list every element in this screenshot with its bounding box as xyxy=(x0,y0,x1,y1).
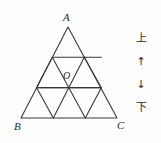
vertex-label-b: B xyxy=(14,121,21,132)
direction-label-down: 下 xyxy=(136,102,147,113)
interior-line-parallel-ab-3 xyxy=(85,88,101,118)
interior-line-parallel-ac-1 xyxy=(84,57,101,87)
geometry-figure: A B C O 上 ↑ ↓ 下 xyxy=(0,0,161,143)
up-arrow-icon: ↑ xyxy=(136,56,145,67)
interior-line-parallel-ac-3 xyxy=(37,88,54,118)
vertical-direction-key: 上 ↑ ↓ 下 xyxy=(129,33,153,113)
vertex-label-c: C xyxy=(117,120,124,131)
down-arrow-icon: ↓ xyxy=(136,79,145,90)
interior-point-label-o: O xyxy=(63,71,70,81)
interior-line-parallel-ab-1 xyxy=(37,57,53,87)
direction-label-up: 上 xyxy=(136,33,147,44)
vertex-label-a: A xyxy=(63,12,70,23)
